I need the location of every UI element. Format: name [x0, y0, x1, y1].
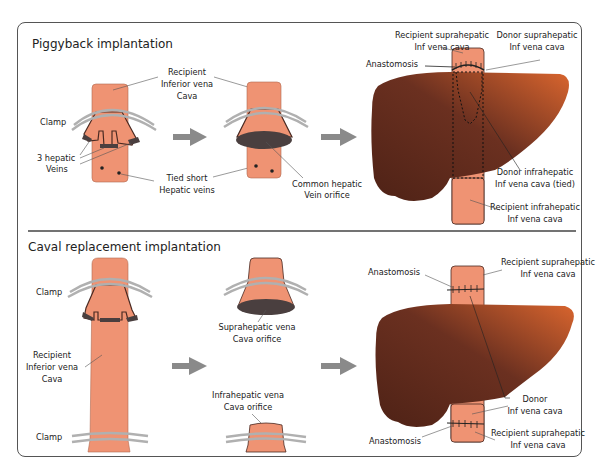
svg-text:Inferior vena: Inferior vena: [26, 362, 78, 372]
svg-text:Inf vena cava: Inf vena cava: [520, 269, 575, 279]
svg-text:Common hepatic: Common hepatic: [292, 179, 362, 189]
caval-infrahepatic-stump: [226, 414, 306, 452]
pb-stage1-labels: Recipient Inferior vena Cava Clamp 3 hep…: [37, 67, 258, 195]
svg-text:Clamp: Clamp: [40, 117, 66, 127]
svg-text:Clamp: Clamp: [36, 432, 62, 442]
svg-text:Inf vena cava: Inf vena cava: [507, 214, 562, 224]
arrow-icon: [321, 357, 357, 375]
svg-text:Inf vena cava: Inf vena cava: [510, 440, 565, 450]
caval-suprahepatic-stump: [224, 258, 308, 322]
svg-text:Inf vena cava: Inf vena cava: [509, 42, 564, 52]
pb-stage2-vessel: [224, 82, 308, 178]
svg-text:Recipient suprahepatic: Recipient suprahepatic: [501, 257, 595, 267]
svg-text:Inferior vena: Inferior vena: [161, 79, 213, 89]
svg-text:Donor: Donor: [523, 394, 549, 404]
caval-title: Caval replacement implantation: [28, 240, 221, 254]
liver-transplant-diagram: Piggyback implantation Recipient Inferio…: [0, 0, 600, 475]
svg-text:Tied short: Tied short: [166, 173, 209, 183]
svg-text:3 hepatic: 3 hepatic: [37, 153, 75, 163]
svg-text:Inf vena cava: Inf vena cava: [414, 42, 469, 52]
svg-text:Anastomosis: Anastomosis: [368, 267, 420, 277]
svg-text:Donor suprahepatic: Donor suprahepatic: [497, 30, 578, 40]
svg-text:Infrahepatic vena: Infrahepatic vena: [212, 390, 284, 400]
svg-text:Hepatic veins: Hepatic veins: [159, 185, 215, 195]
svg-text:Veins: Veins: [46, 164, 68, 174]
svg-text:Donor infrahepatic: Donor infrahepatic: [497, 167, 574, 177]
svg-text:Recipient suprahepatic: Recipient suprahepatic: [491, 428, 585, 438]
svg-text:Recipient: Recipient: [33, 350, 72, 360]
caval-recipient-ivc: [68, 258, 152, 452]
svg-text:Anastomosis: Anastomosis: [369, 436, 421, 446]
arrow-icon: [173, 128, 207, 146]
svg-text:Recipient suprahepatic: Recipient suprahepatic: [395, 30, 489, 40]
arrow-icon: [172, 357, 207, 375]
svg-text:Anastomosis: Anastomosis: [366, 59, 418, 69]
svg-text:Suprahepatic vena: Suprahepatic vena: [218, 322, 295, 332]
svg-text:Vein orifice: Vein orifice: [304, 190, 349, 200]
arrow-icon: [321, 128, 357, 146]
svg-text:Inf vena cava (tied): Inf vena cava (tied): [495, 179, 575, 189]
svg-text:Cava: Cava: [177, 91, 198, 101]
piggyback-title: Piggyback implantation: [32, 37, 173, 51]
svg-text:Recipient: Recipient: [168, 67, 207, 77]
svg-text:Cava: Cava: [42, 374, 63, 384]
pb-liver-graft: [371, 47, 569, 224]
svg-text:Cava orifice: Cava orifice: [233, 334, 282, 344]
svg-text:Recipient infrahepatic: Recipient infrahepatic: [490, 202, 580, 212]
pb-stage1-vessel: [72, 84, 156, 182]
svg-text:Clamp: Clamp: [36, 287, 62, 297]
svg-text:Inf vena cava: Inf vena cava: [507, 406, 562, 416]
svg-text:Cava orifice: Cava orifice: [224, 402, 273, 412]
